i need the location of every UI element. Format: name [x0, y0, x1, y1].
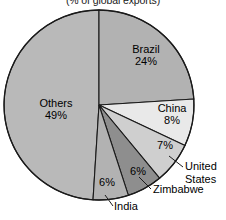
slice-label-india-name: India: [114, 200, 138, 213]
slice-label-china-name: China: [148, 102, 196, 114]
slice-label-others-value: 49%: [26, 109, 86, 121]
pie-chart-figure: (% of global exports) Brazil 24% Others …: [0, 0, 226, 220]
slice-label-india-value: 6%: [94, 176, 120, 188]
slice-label-china: China 8%: [148, 102, 196, 126]
slice-label-brazil: Brazil 24%: [118, 43, 174, 67]
slice-label-zimbabwe-name: Zimbabwe: [153, 183, 204, 196]
slice-label-united-states-name-line1: United: [185, 160, 217, 173]
slice-label-china-value: 8%: [148, 114, 196, 126]
slice-label-brazil-value: 24%: [118, 55, 174, 67]
slice-label-others: Others 49%: [26, 97, 86, 121]
slice-label-brazil-name: Brazil: [118, 43, 174, 55]
slice-label-others-name: Others: [26, 97, 86, 109]
slice-label-zimbabwe-value: 6%: [125, 165, 151, 177]
slice-label-united-states-name: United States: [185, 160, 217, 185]
slice-label-united-states-value: 7%: [152, 139, 178, 151]
